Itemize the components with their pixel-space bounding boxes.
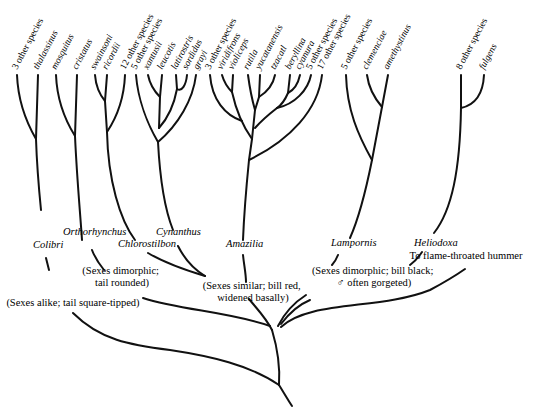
- genus-label-orthorhynchus: Orthorhynchus: [63, 226, 126, 237]
- genus-label-chlorostilbon: Chlorostilbon: [118, 238, 176, 249]
- note-sexes-alike-tail-square: (Sexes alike; tail square-tipped): [6, 297, 140, 309]
- tip-label-amethystinus: amethystinus: [381, 22, 413, 71]
- genus-labels: Colibri Orthorhynchus Chlorostilbon Cyna…: [33, 226, 458, 250]
- note-flame-throated-hummer: To flame-throated hummer: [410, 250, 523, 261]
- genus-label-lampornis: Lampornis: [330, 237, 377, 248]
- trait-notes: (Sexes dimorphic; tail rounded) (Sexes s…: [6, 250, 523, 309]
- phylogenetic-tree: 3 other species thalassinus mosquitus cr…: [0, 0, 557, 419]
- tip-label-fulgens: fulgens: [477, 42, 499, 71]
- note-sexes-similar-bill-red: (Sexes similar; bill red, widened basall…: [203, 280, 304, 304]
- genus-label-heliodoxa: Heliodoxa: [413, 237, 458, 248]
- tip-labels: 3 other species thalassinus mosquitus cr…: [10, 12, 499, 72]
- note-sexes-dimorphic-tail-rounded: (Sexes dimorphic; tail rounded): [82, 265, 161, 289]
- genus-label-cynanthus: Cynanthus: [156, 226, 201, 237]
- genus-label-colibri: Colibri: [33, 239, 63, 250]
- note-sexes-dimorphic-bill-black: (Sexes dimorphic; bill black; ♂ often go…: [312, 265, 436, 289]
- genus-label-amazilia: Amazilia: [225, 238, 263, 249]
